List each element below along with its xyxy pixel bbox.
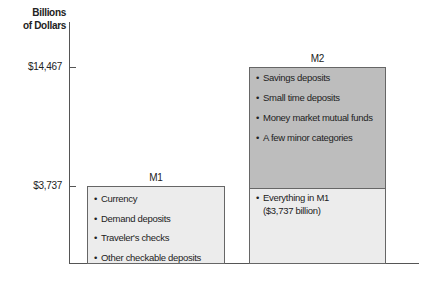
y-axis-label-line1: Billions [8, 6, 66, 19]
m2-item: Savings deposits [256, 68, 385, 88]
m2-m1-segment: Everything in M1($3,737 billion) [250, 189, 385, 217]
m1-bar: Currency Demand deposits Traveler's chec… [87, 186, 225, 264]
m2-base-item: Everything in M1($3,737 billion) [256, 191, 385, 217]
m1-item: Demand deposits [94, 209, 224, 229]
m2-additional-segment: Savings deposits Small time deposits Mon… [250, 68, 385, 189]
m1-item: Other checkable deposits [94, 248, 224, 268]
tick-label-14467: $14,467 [0, 61, 62, 72]
m2-base-line2: ($3,737 billion) [256, 205, 385, 217]
m2-item: Money market mutual funds [256, 108, 385, 128]
m1-item: Currency [94, 189, 224, 209]
m1-title: M1 [87, 172, 225, 183]
m2-bar: Savings deposits Small time deposits Mon… [249, 67, 386, 264]
y-axis [69, 22, 70, 264]
y-axis-label: Billions of Dollars [8, 6, 66, 32]
m1-item: Traveler's checks [94, 228, 224, 248]
tick-3737 [69, 186, 76, 187]
m2-component-list: Savings deposits Small time deposits Mon… [250, 68, 385, 148]
m2-base-list: Everything in M1($3,737 billion) [256, 191, 385, 217]
m2-item: A few minor categories [256, 128, 385, 148]
tick-14467 [69, 67, 76, 68]
tick-label-3737: $3,737 [0, 180, 62, 191]
m2-title: M2 [249, 53, 386, 64]
y-axis-label-line2: of Dollars [8, 19, 66, 32]
m2-item: Small time deposits [256, 88, 385, 108]
m2-base-line1: Everything in M1 [263, 192, 329, 203]
m1-component-list: Currency Demand deposits Traveler's chec… [88, 187, 224, 267]
